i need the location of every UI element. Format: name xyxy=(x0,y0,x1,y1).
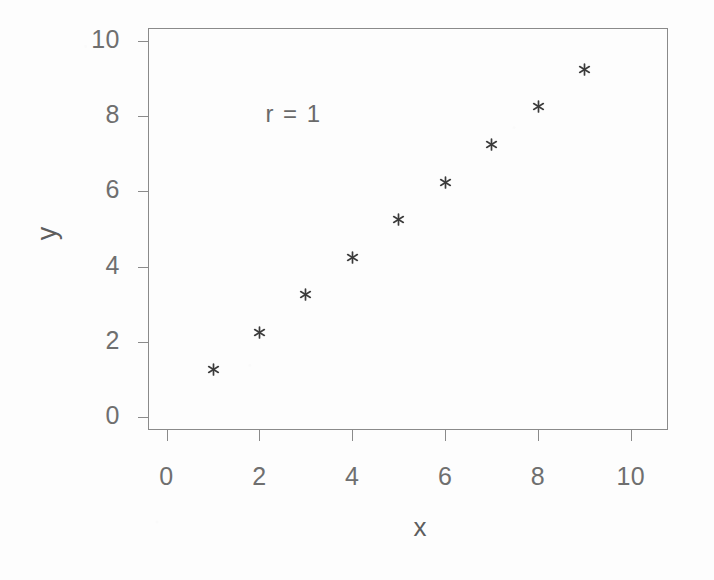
correlation-annotation: r = 1 xyxy=(265,100,321,128)
y-tick-label: 6 xyxy=(56,175,120,204)
x-tick-label: 4 xyxy=(322,462,382,491)
x-tick-label: 2 xyxy=(229,462,289,491)
y-tick-mark xyxy=(138,191,149,192)
y-tick-label: 10 xyxy=(56,25,120,54)
y-tick-mark xyxy=(138,267,149,268)
figure-canvas: 0246810 0246810 r = 1 y x xyxy=(0,0,714,580)
y-axis-label: y xyxy=(32,211,63,257)
y-tick-mark xyxy=(138,41,149,42)
plot-frame xyxy=(148,28,668,430)
x-tick-label: 10 xyxy=(601,462,661,491)
x-tick-mark xyxy=(445,430,446,441)
x-tick-mark xyxy=(167,430,168,441)
x-tick-mark xyxy=(259,430,260,441)
y-tick-label: 2 xyxy=(56,326,120,355)
x-tick-mark xyxy=(538,430,539,441)
x-tick-mark xyxy=(352,430,353,441)
y-tick-mark xyxy=(138,417,149,418)
y-tick-mark xyxy=(138,342,149,343)
y-tick-label: 8 xyxy=(56,100,120,129)
y-tick-mark xyxy=(138,116,149,117)
x-tick-label: 8 xyxy=(508,462,568,491)
y-tick-label: 4 xyxy=(56,251,120,280)
x-axis-label: x xyxy=(392,512,448,543)
y-tick-label: 0 xyxy=(56,401,120,430)
x-tick-mark xyxy=(631,430,632,441)
x-tick-label: 0 xyxy=(137,462,197,491)
x-tick-label: 6 xyxy=(415,462,475,491)
